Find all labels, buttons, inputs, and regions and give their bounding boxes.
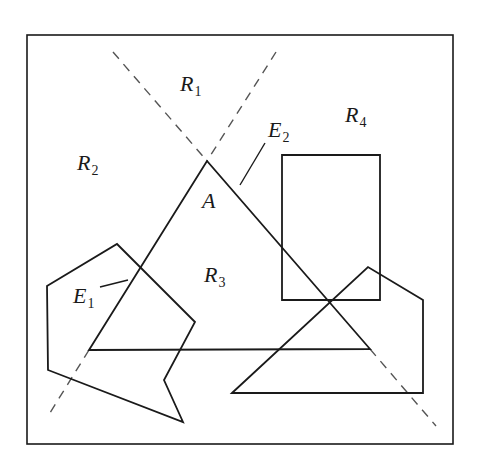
right-polygon-shape	[232, 267, 423, 393]
label-r1: R1	[179, 71, 201, 99]
dashed-line	[113, 52, 207, 161]
label-r3: R3	[203, 262, 225, 290]
dashed-line	[370, 349, 436, 426]
label-e1: E1	[72, 283, 94, 311]
rectangle-shape	[282, 155, 380, 300]
dashed-line	[207, 52, 276, 161]
region-labels: R1R2R3R4AE1E2	[72, 71, 366, 311]
dashed-partition-lines	[48, 52, 436, 426]
label-r4: R4	[344, 102, 366, 130]
leader-line-E1	[100, 280, 128, 287]
label-r2: R2	[76, 150, 98, 178]
left-polygon-shape	[47, 244, 195, 422]
diagram-canvas: R1R2R3R4AE1E2	[0, 0, 481, 461]
leader-line-E2	[240, 143, 265, 185]
label-e2: E2	[267, 117, 289, 145]
outer-frame	[27, 35, 453, 444]
triangle-region-A	[89, 161, 370, 350]
label-a: A	[200, 188, 216, 213]
